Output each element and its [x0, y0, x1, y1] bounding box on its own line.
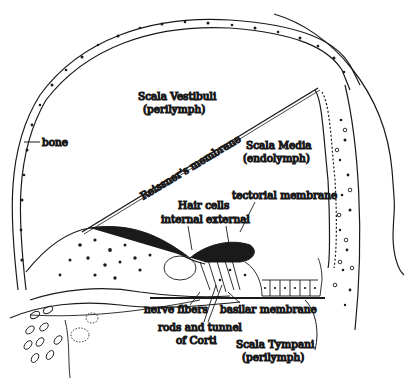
label-of-corti: of Corti: [176, 334, 217, 346]
label-rods-tunnel: rods and tunnel: [158, 321, 243, 333]
label-internal: internal: [161, 213, 204, 225]
tectorial-membrane: [90, 227, 254, 262]
spiral-ligament: [315, 85, 360, 330]
label-hair-cells: Hair cells: [178, 199, 229, 211]
label-scala-vestibuli: Scala Vestibuli: [138, 90, 217, 102]
label-basilar-membrane: basilar membrane: [220, 303, 317, 315]
label-tectorial-membrane: tectorial membrane: [232, 189, 337, 201]
cochlea-diagram: Scala Vestibuli (perilymph) bone Reissne…: [0, 0, 417, 378]
label-reissners-membrane: Reissner's membrane: [138, 132, 243, 201]
label-scala-media-fluid: (endolymph): [243, 152, 310, 164]
label-scala-tympani-fluid: (perilymph): [242, 351, 304, 363]
label-scala-media: Scala Media: [246, 139, 312, 151]
label-scala-vestibuli-fluid: (perilymph): [143, 103, 205, 115]
label-bone: bone: [42, 136, 68, 148]
organ-of-corti: [164, 256, 322, 296]
label-external: external: [206, 213, 251, 225]
label-nerve-fibers: nerve fibers: [144, 303, 208, 315]
label-scala-tympani: Scala Tympani: [236, 338, 315, 350]
labels: Scala Vestibuli (perilymph) bone Reissne…: [24, 90, 337, 363]
